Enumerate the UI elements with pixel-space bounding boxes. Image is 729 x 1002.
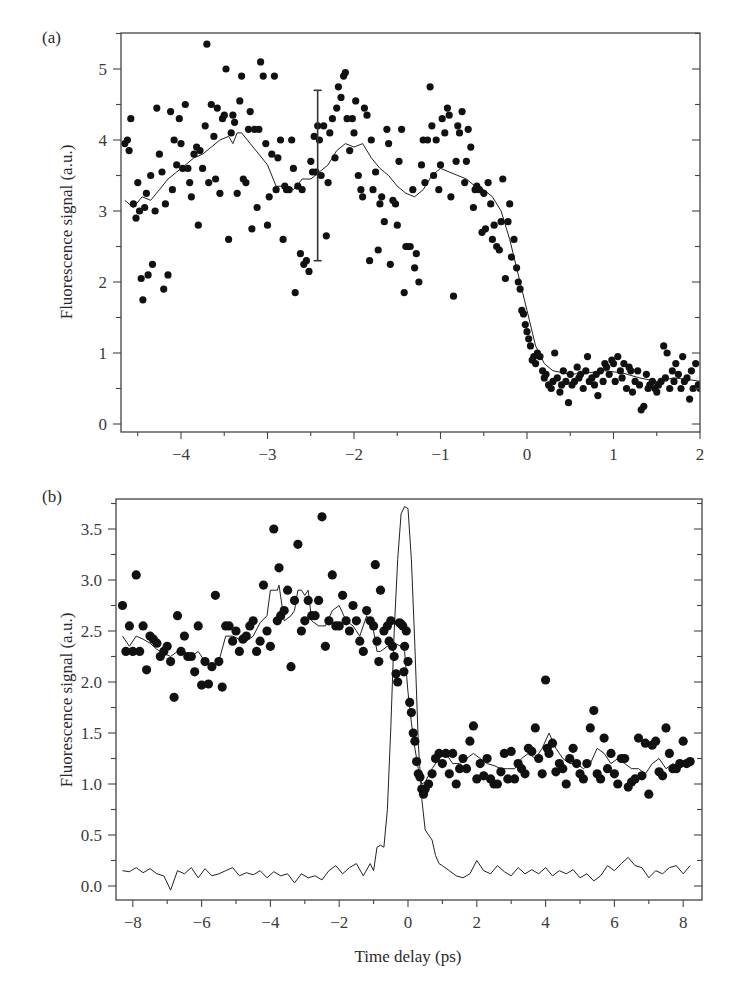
data-point (658, 771, 667, 780)
data-point (139, 621, 148, 630)
data-point (600, 378, 607, 385)
data-point (405, 698, 414, 707)
panel-b-plot-area (118, 507, 695, 890)
data-point (456, 129, 463, 136)
data-point (135, 647, 144, 656)
data-point (221, 112, 228, 119)
data-point (286, 662, 295, 671)
data-point (686, 396, 693, 403)
x-tick-label: −1 (431, 445, 449, 464)
data-point (450, 293, 457, 300)
data-point (421, 179, 428, 186)
data-point (369, 186, 376, 193)
data-point (234, 190, 241, 197)
panel-a-axes: −4−3−2−1012012345 (99, 33, 705, 464)
data-point (203, 41, 210, 48)
data-point (629, 389, 636, 396)
y-tick-label: 4 (99, 131, 108, 150)
data-point (560, 367, 567, 374)
data-point (617, 367, 624, 374)
data-point (462, 764, 471, 773)
data-point (412, 757, 421, 766)
data-point (304, 596, 313, 605)
data-point (317, 512, 326, 521)
data-point (670, 378, 677, 385)
x-tick-label: −4 (261, 913, 280, 932)
data-point (333, 105, 340, 112)
data-point (409, 728, 418, 737)
x-tick-label: 4 (541, 913, 550, 932)
data-point (686, 757, 695, 766)
data-point (166, 657, 175, 666)
data-point (499, 175, 506, 182)
data-point (410, 737, 419, 746)
data-point (249, 616, 258, 625)
data-point (485, 179, 492, 186)
data-point (202, 122, 209, 129)
data-point (145, 271, 152, 278)
data-point (292, 289, 299, 296)
data-point (619, 374, 626, 381)
data-point (325, 179, 332, 186)
data-point (269, 524, 278, 533)
data-point (277, 136, 284, 143)
data-point (395, 158, 402, 165)
data-point (314, 596, 323, 605)
data-point (225, 236, 232, 243)
data-point (565, 399, 572, 406)
data-point (170, 693, 179, 702)
data-point (212, 175, 219, 182)
data-point (649, 378, 656, 385)
data-point (266, 642, 275, 651)
data-point (177, 140, 184, 147)
data-point (441, 129, 448, 136)
data-point (579, 774, 588, 783)
data-point (194, 621, 203, 630)
data-point (363, 112, 370, 119)
data-point (672, 360, 679, 367)
x-tick-label: 2 (696, 445, 705, 464)
y-tick-label: 0 (99, 415, 108, 434)
data-point (184, 165, 191, 172)
data-point (562, 378, 569, 385)
data-point (532, 360, 539, 367)
data-point (335, 83, 342, 90)
data-point (125, 621, 134, 630)
data-point (273, 186, 280, 193)
data-point (430, 172, 437, 179)
data-point (329, 115, 336, 122)
data-point (190, 151, 197, 158)
data-point (378, 193, 385, 200)
data-point (173, 161, 180, 168)
data-point (523, 328, 530, 335)
data-point (355, 637, 364, 646)
data-point (257, 58, 264, 65)
data-point (634, 367, 641, 374)
data-point (679, 353, 686, 360)
data-point (345, 626, 354, 635)
data-point (536, 353, 543, 360)
data-point (293, 540, 302, 549)
data-point (126, 147, 133, 154)
data-point (238, 73, 245, 80)
x-tick-label: −4 (172, 445, 191, 464)
data-point (614, 353, 621, 360)
data-point (437, 161, 444, 168)
scatter-points (118, 512, 695, 799)
panel-b-y-axis-title: Fluorescence signal (a.u.) (57, 613, 76, 788)
data-point (134, 179, 141, 186)
data-point (342, 616, 351, 625)
data-point (236, 97, 243, 104)
data-point (153, 105, 160, 112)
data-point (465, 737, 474, 746)
data-point (398, 126, 405, 133)
y-tick-label: 3.0 (81, 571, 102, 590)
data-point (498, 218, 505, 225)
data-point (623, 385, 630, 392)
data-point (199, 165, 206, 172)
data-point (303, 257, 310, 264)
data-point (374, 657, 383, 666)
data-point (522, 321, 529, 328)
data-point (362, 606, 371, 615)
data-point (318, 172, 325, 179)
